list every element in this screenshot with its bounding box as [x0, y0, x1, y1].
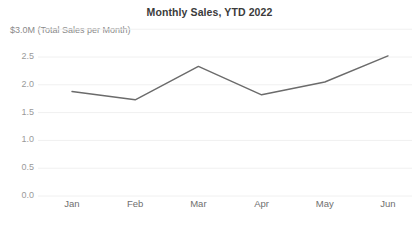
- x-tick-label: Mar: [168, 198, 228, 209]
- gridlines: [38, 29, 412, 196]
- plot-area: [0, 0, 419, 227]
- x-tick-label: Jan: [42, 198, 102, 209]
- y-tick-label: 0.0: [8, 190, 34, 200]
- y-tick-label: 2.0: [8, 79, 34, 89]
- x-tick-label: May: [295, 198, 355, 209]
- y-tick-label: 1.0: [8, 134, 34, 144]
- sales-line-series: [72, 56, 388, 100]
- y-tick-label: 2.5: [8, 51, 34, 61]
- y-tick-label: 1.5: [8, 107, 34, 117]
- y-tick-label: 0.5: [8, 162, 34, 172]
- chart-screenshot: Monthly Sales, YTD 2022 $3.0M (Total Sal…: [0, 0, 419, 227]
- x-tick-label: Jun: [358, 198, 418, 209]
- x-tick-label: Feb: [105, 198, 165, 209]
- x-tick-label: Apr: [232, 198, 292, 209]
